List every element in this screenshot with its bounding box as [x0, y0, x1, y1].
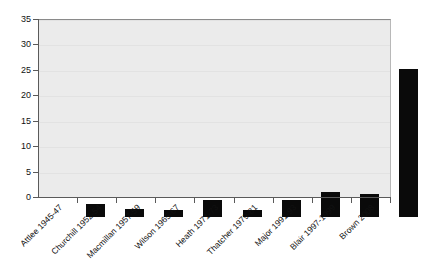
- x-axis-tick-mark: [116, 198, 117, 203]
- x-axis-tick-mark: [155, 198, 156, 203]
- bar: [243, 210, 262, 217]
- bar: [321, 192, 340, 217]
- y-axis-tick-label: 5: [0, 167, 31, 176]
- x-axis-line: [38, 197, 391, 198]
- x-axis-tick-mark: [77, 198, 78, 203]
- bar: [399, 69, 418, 218]
- y-axis-tick-mark: [33, 121, 38, 122]
- x-axis-tick-mark: [273, 198, 274, 203]
- x-axis-tick-mark: [351, 198, 352, 203]
- y-axis-tick-label: 15: [0, 116, 31, 125]
- bar: [125, 209, 144, 217]
- y-axis-tick-mark: [33, 146, 38, 147]
- x-axis-label: Attlee 1945-47: [0, 203, 64, 268]
- y-axis-tick-label: 10: [0, 142, 31, 151]
- y-axis-tick-mark: [33, 95, 38, 96]
- plot-area: [38, 19, 391, 198]
- y-axis-tick-mark: [33, 44, 38, 45]
- x-axis-tick-mark: [194, 198, 195, 203]
- y-axis-tick-label: 30: [0, 40, 31, 49]
- gridline: [38, 20, 390, 21]
- bar: [86, 204, 105, 217]
- y-axis-tick-mark: [33, 19, 38, 20]
- x-axis-tick-mark: [234, 198, 235, 203]
- bar: [164, 210, 183, 217]
- x-axis-tick-mark: [390, 198, 391, 203]
- y-axis-tick-mark: [33, 70, 38, 71]
- y-axis-tick-mark: [33, 172, 38, 173]
- y-axis-tick-label: 35: [0, 15, 31, 24]
- bar: [203, 200, 222, 217]
- y-axis-tick-label: 25: [0, 65, 31, 74]
- y-axis-tick-mark: [33, 197, 38, 198]
- bar: [282, 200, 301, 217]
- bars-layer: [76, 39, 422, 217]
- x-axis-tick-mark: [312, 198, 313, 203]
- y-axis-line: [38, 19, 39, 198]
- y-axis-tick-label: 0: [0, 193, 31, 202]
- y-axis-tick-label: 20: [0, 91, 31, 100]
